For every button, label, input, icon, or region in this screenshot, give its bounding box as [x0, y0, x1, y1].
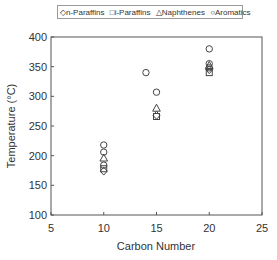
y-axis-title: Temperature (°C) — [5, 84, 17, 168]
y-tick-label: 150 — [29, 179, 47, 191]
scatter-chart: 100150200250300350400 510152025 Carbon N… — [0, 0, 277, 260]
y-tick-label: 350 — [29, 61, 47, 73]
y-tick-label: 200 — [29, 150, 47, 162]
triangle-data-point — [153, 104, 161, 111]
y-tick-label: 100 — [29, 209, 47, 221]
x-tick-label: 5 — [48, 222, 54, 234]
x-tick-label: 25 — [256, 222, 268, 234]
plot-frame — [51, 37, 262, 215]
x-tick-label: 20 — [203, 222, 215, 234]
circle-data-point — [101, 142, 107, 148]
data-points — [100, 46, 213, 175]
circle-data-point — [143, 69, 149, 75]
y-tick-label: 300 — [29, 90, 47, 102]
diamond-data-point — [153, 111, 160, 119]
circle-data-point — [206, 46, 212, 52]
y-tick-label: 250 — [29, 120, 47, 132]
x-tick-label: 15 — [150, 222, 162, 234]
circle-data-point — [153, 89, 159, 95]
x-axis-title: Carbon Number — [117, 240, 196, 252]
y-axis-ticks: 100150200250300350400 — [29, 31, 54, 221]
x-tick-label: 10 — [98, 222, 110, 234]
y-tick-label: 400 — [29, 31, 47, 43]
